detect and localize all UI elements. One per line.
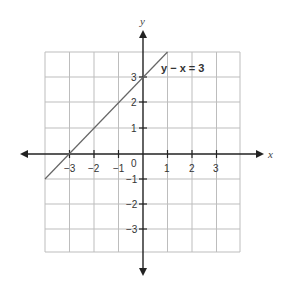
x-tick-label: −3 [64, 163, 76, 174]
x-tick-label: −2 [88, 163, 100, 174]
x-tick-label: 1 [164, 163, 170, 174]
x-tick-label: 2 [189, 163, 195, 174]
x-axis-label: x [267, 148, 273, 160]
y-tick-label: 2 [131, 97, 137, 108]
coordinate-plane: −3 −2 −1 0 1 2 3 3 2 1 −1 −2 −3 y x y − … [0, 0, 288, 281]
y-tick-label: −2 [126, 199, 138, 210]
y-tick-label: 1 [131, 123, 137, 134]
x-axis-left-arrow-icon [20, 150, 28, 158]
x-axis-right-arrow-icon [256, 150, 264, 158]
origin-label: 0 [131, 158, 137, 169]
y-tick-label: −1 [126, 174, 138, 185]
y-tick-label: 3 [131, 72, 137, 83]
y-axis-up-arrow-icon [139, 30, 147, 38]
y-tick-label: −3 [126, 224, 138, 235]
y-axis-down-arrow-icon [139, 268, 147, 276]
line-series [45, 52, 168, 179]
x-tick-label: 3 [213, 163, 219, 174]
y-axis-label: y [139, 15, 145, 27]
x-tick-label: −1 [113, 163, 125, 174]
equation-label: y − x = 3 [161, 62, 204, 74]
